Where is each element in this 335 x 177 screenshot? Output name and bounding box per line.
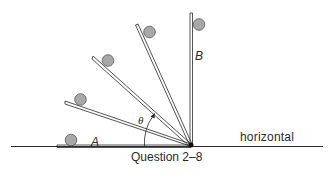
label-angle-theta: θ [138, 115, 143, 126]
board-incline-mid [92, 56, 191, 146]
figure-caption: Question 2–8 [131, 151, 202, 163]
board-position-b [190, 13, 193, 145]
ball-position-b [193, 19, 205, 31]
ball-incline-low [75, 94, 87, 106]
board-incline-low [65, 101, 191, 146]
ball-incline-mid [102, 55, 114, 67]
label-horizontal: horizontal [240, 131, 294, 143]
pivot-point [189, 143, 194, 148]
inclined-plane-diagram: A B θ horizontal Question 2–8 [0, 0, 335, 177]
ball-incline-high [144, 26, 156, 38]
label-position-b: B [195, 50, 203, 62]
board-incline-high [136, 24, 193, 145]
ball-position-a [65, 134, 77, 146]
label-position-a: A [91, 136, 99, 148]
